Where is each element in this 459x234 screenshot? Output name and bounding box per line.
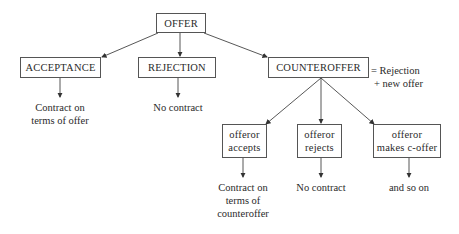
node-line: rejects <box>305 141 334 154</box>
counteroffer-chain-outcome: and so on <box>369 181 449 194</box>
counteroffer-label: COUNTEROFFER <box>276 62 361 73</box>
offeror-rejects-node: offeror rejects <box>297 124 342 158</box>
outcome-line: terms of <box>203 194 283 207</box>
counteroffer-node: COUNTEROFFER <box>268 57 369 78</box>
outcome-line: terms of offer <box>10 114 110 127</box>
outcome-line: No contract <box>128 101 228 114</box>
counteroffer-note: = Rejection + new offer <box>371 64 423 90</box>
node-line: offeror <box>392 128 422 141</box>
outcome-line: counteroffer <box>203 207 283 220</box>
node-line: makes c-offer <box>377 141 437 154</box>
offeror-accepts-outcome: Contract on terms of counteroffer <box>203 181 283 220</box>
node-line: offeror <box>304 128 334 141</box>
acceptance-label: ACCEPTANCE <box>26 62 96 73</box>
node-line: offeror <box>229 128 259 141</box>
outcome-line: No contract <box>281 181 361 194</box>
offeror-accepts-node: offeror accepts <box>222 124 267 158</box>
outcome-line: and so on <box>369 181 449 194</box>
rejection-node: REJECTION <box>138 57 216 78</box>
offeror-makes-counteroffer-node: offeror makes c-offer <box>373 124 441 158</box>
rejection-outcome: No contract <box>128 101 228 114</box>
offeror-rejects-outcome: No contract <box>281 181 361 194</box>
offer-node: OFFER <box>156 13 206 33</box>
node-line: accepts <box>228 141 260 154</box>
note-line-2: + new offer <box>371 77 423 90</box>
acceptance-node: ACCEPTANCE <box>20 57 101 78</box>
note-line-1: = Rejection <box>371 64 423 77</box>
offer-label: OFFER <box>164 18 198 29</box>
acceptance-outcome: Contract on terms of offer <box>10 101 110 127</box>
outcome-line: Contract on <box>10 101 110 114</box>
outcome-line: Contract on <box>203 181 283 194</box>
rejection-label: REJECTION <box>148 62 206 73</box>
